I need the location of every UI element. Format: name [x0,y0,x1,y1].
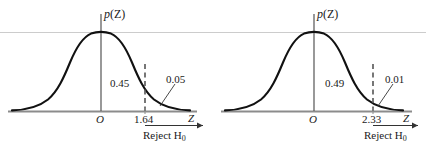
reject-region-arrow-head [197,123,203,129]
panel-alpha-001: p(Z) 0.49 0.01 O 2.33 Z Reject H0 [213,0,426,152]
density-axis-label: p(Z) [317,8,338,20]
body-area-label: 0.49 [325,78,344,89]
reject-region-arrow-head [412,123,418,129]
critical-value-label: 2.33 [362,114,381,125]
x-axis-label: Z [188,113,194,124]
panel-alpha-005: p(Z) 0.45 0.05 O 1.64 Z Reject H0 [0,0,213,152]
x-axis-label: Z [403,113,409,124]
density-axis-label: p(Z) [104,8,125,20]
tail-leader-line [160,84,175,106]
reject-region-label: Reject H0 [143,130,186,143]
body-area-label: 0.45 [110,78,129,89]
critical-value-label: 1.64 [134,114,153,125]
statistics-figure: p(Z) 0.45 0.05 O 1.64 Z Reject H0 p(Z) [0,0,426,152]
reject-region-label: Reject H0 [364,130,407,143]
tail-leader-line [378,84,393,106]
origin-label: O [96,114,104,125]
tail-area-label: 0.01 [385,74,404,85]
tail-area-label: 0.05 [166,74,185,85]
origin-label: O [309,114,317,125]
